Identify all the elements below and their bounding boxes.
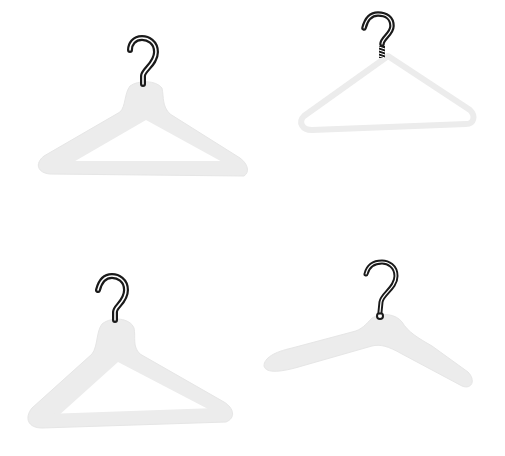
hanger-body xyxy=(264,315,472,387)
hanger-top-left xyxy=(30,36,260,186)
hook-icon xyxy=(98,276,126,320)
hanger-body xyxy=(301,56,473,130)
ball-tip-hook-icon xyxy=(366,262,396,320)
hanger-top-right xyxy=(294,14,484,139)
hanger-bottom-right xyxy=(262,262,492,402)
hanger-bottom-left xyxy=(20,284,250,434)
hanger-body xyxy=(38,82,247,176)
screw-hook-icon xyxy=(364,14,392,58)
hanger-body xyxy=(28,319,233,428)
hanger-scene xyxy=(0,0,505,456)
hook-icon xyxy=(130,38,156,84)
